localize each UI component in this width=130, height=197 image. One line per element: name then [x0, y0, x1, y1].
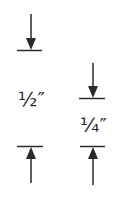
quarter-inch-bottom-callout [80, 147, 105, 186]
half-inch-bottom-callout [17, 147, 43, 184]
down-arrow-icon [26, 38, 36, 50]
quarter-inch-top-callout [79, 63, 105, 99]
half-inch-top-callout [17, 14, 42, 51]
quarter-inch-label: ¼″ [80, 115, 107, 135]
down-arrow-icon [88, 86, 98, 98]
half-inch-label: ½″ [18, 89, 45, 109]
dimension-diagram: ½″ ¼″ [0, 0, 130, 197]
